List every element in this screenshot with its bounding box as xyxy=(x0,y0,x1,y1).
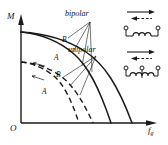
leader-bipolar-to-B xyxy=(68,22,90,38)
origin-label: O xyxy=(10,124,17,133)
unipolar-group-label: unipolar xyxy=(68,46,96,54)
unipolar-terminal-left xyxy=(124,66,128,70)
bipolar-group-label: bipolar xyxy=(65,10,89,18)
bipolar-terminal-left xyxy=(124,26,128,30)
unipolar-terminal-right xyxy=(156,66,160,70)
x-axis-label-sub: g xyxy=(151,130,154,136)
figure-canvas: M fg O bipolar unipolar B A B A xyxy=(0,0,168,145)
bipolar-arrow-reverse-head xyxy=(131,16,137,20)
bipolar-arrow-forward-head xyxy=(149,10,155,14)
pointer-unipolar-A xyxy=(32,76,44,80)
curve-label-bipolar-A: A xyxy=(54,54,59,62)
unipolar-arrow-forward-head xyxy=(149,50,155,54)
bipolar-terminal-right xyxy=(156,26,160,30)
curve-label-unipolar-B: B xyxy=(56,71,61,79)
bipolar-circuit-symbol xyxy=(124,10,160,36)
curve-label-unipolar-A: A xyxy=(42,88,47,96)
y-axis-arrowhead xyxy=(18,14,24,25)
curve-label-bipolar-B: B xyxy=(62,36,67,44)
y-axis-label: M xyxy=(7,12,15,21)
unipolar-arrow-reverse-head xyxy=(131,56,137,60)
unipolar-circuit-symbol xyxy=(124,50,160,78)
unipolar-terminal-center xyxy=(140,66,144,70)
curve-bipolar-A xyxy=(21,32,111,123)
bipolar-coil xyxy=(133,33,151,36)
x-axis-label: fg xyxy=(148,126,154,136)
curve-unipolar-A xyxy=(21,62,79,123)
diagram-svg xyxy=(0,0,168,145)
